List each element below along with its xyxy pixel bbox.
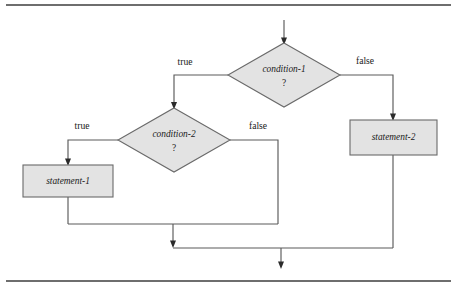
flowchart-canvas: condition-1 ? condition-2 ? statement-1 … (0, 0, 457, 289)
merge-drop-inner-arrow-icon (170, 241, 176, 249)
decision-node-condition-1-label: condition-1 (262, 64, 305, 74)
edge-d2-false (230, 140, 278, 224)
decision-node-condition-1-qmark: ? (282, 78, 286, 88)
decision-node-condition-1[interactable] (228, 43, 340, 107)
decision-node-condition-2-label: condition-2 (152, 129, 196, 139)
decision-node-condition-2-qmark: ? (172, 143, 176, 153)
process-node-statement-2-label: statement-2 (372, 132, 416, 142)
edge-d1-true (174, 75, 228, 105)
flowchart-figure: condition-1 ? condition-2 ? statement-1 … (0, 0, 457, 289)
edge-label-d1-true: true (178, 56, 193, 67)
edge-label-d1-false: false (356, 55, 374, 66)
edge-d2-true (68, 140, 118, 162)
decision-node-condition-2[interactable] (118, 108, 230, 172)
edge-d1-false (340, 75, 393, 117)
edge-label-d2-false: false (249, 120, 267, 131)
exit-arrow-head-icon (278, 262, 284, 270)
process-node-statement-1-label: statement-1 (46, 176, 90, 186)
edge-label-d2-true: true (75, 120, 90, 131)
